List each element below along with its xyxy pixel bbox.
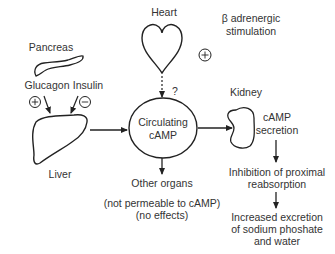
excretion-line3: and water <box>254 235 300 248</box>
insulin-arrow <box>71 96 78 113</box>
heart-question-mark: ? <box>172 85 178 98</box>
heart-label: Heart <box>151 6 177 19</box>
glucagon-label: Glucagon <box>25 79 70 92</box>
beta-label-line1: β adrenergic <box>222 12 281 25</box>
pancreas-label: Pancreas <box>29 41 73 54</box>
glucagon-arrow <box>44 96 50 113</box>
liver-label: Liver <box>49 168 72 181</box>
secretion-line1: cAMP <box>263 111 291 124</box>
other-organs-line1: Other organs <box>131 177 192 190</box>
center-label-line1: Circulating <box>138 116 188 129</box>
secretion-line2: secretion <box>256 124 299 137</box>
center-label-line2: cAMP <box>149 129 177 142</box>
kidney-label: Kidney <box>230 86 262 99</box>
insulin-label: Insulin <box>73 79 103 92</box>
heart-icon <box>142 25 182 73</box>
pancreas-icon <box>35 56 83 76</box>
other-organs-line3: (no effects) <box>136 209 188 222</box>
liver-icon <box>33 115 87 164</box>
beta-label-line2: stimulation <box>226 25 276 38</box>
inhibition-line2: reabsorption <box>248 178 306 191</box>
